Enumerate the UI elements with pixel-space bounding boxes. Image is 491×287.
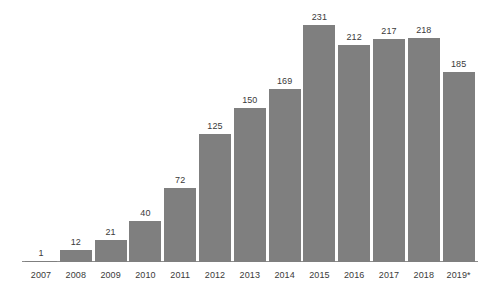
- bar-group: 1252012: [199, 0, 231, 287]
- bar-group: 1852019*: [443, 0, 475, 287]
- bar-group: 2182018: [408, 0, 440, 287]
- bar[interactable]: [129, 221, 161, 262]
- bar-value-label: 1: [19, 248, 63, 259]
- bar-group: 1692014: [269, 0, 301, 287]
- bar[interactable]: [25, 261, 57, 263]
- bar[interactable]: [408, 38, 440, 262]
- bar[interactable]: [164, 188, 196, 262]
- plot-area: 1200712200821200940201072201112520121502…: [0, 0, 491, 287]
- bar[interactable]: [338, 45, 370, 263]
- bar[interactable]: [234, 108, 266, 262]
- bar-value-label: 72: [158, 175, 202, 186]
- bar-group: 12007: [25, 0, 57, 287]
- bar-value-label: 150: [228, 95, 272, 106]
- bar-value-label: 21: [89, 227, 133, 238]
- bar-group: 2312015: [303, 0, 335, 287]
- bar-group: 2122016: [338, 0, 370, 287]
- bar[interactable]: [443, 72, 475, 262]
- bar[interactable]: [373, 39, 405, 262]
- x-axis-tick-label: 2019*: [436, 270, 482, 281]
- bar-value-label: 218: [402, 25, 446, 36]
- bar-group: 722011: [164, 0, 196, 287]
- bar-value-label: 169: [263, 76, 307, 87]
- bar-group: 212009: [95, 0, 127, 287]
- bar[interactable]: [303, 25, 335, 262]
- bar-group: 2172017: [373, 0, 405, 287]
- bar[interactable]: [95, 240, 127, 262]
- bar-group: 1502013: [234, 0, 266, 287]
- bar-value-label: 231: [297, 12, 341, 23]
- bar-value-label: 185: [437, 59, 481, 70]
- bar-group: 122008: [60, 0, 92, 287]
- bar[interactable]: [60, 250, 92, 262]
- bar[interactable]: [199, 134, 231, 262]
- bar-chart: 1200712200821200940201072201112520121502…: [0, 0, 491, 287]
- bar-value-label: 125: [193, 121, 237, 132]
- bar-value-label: 40: [123, 208, 167, 219]
- bar[interactable]: [269, 89, 301, 262]
- bar-group: 402010: [129, 0, 161, 287]
